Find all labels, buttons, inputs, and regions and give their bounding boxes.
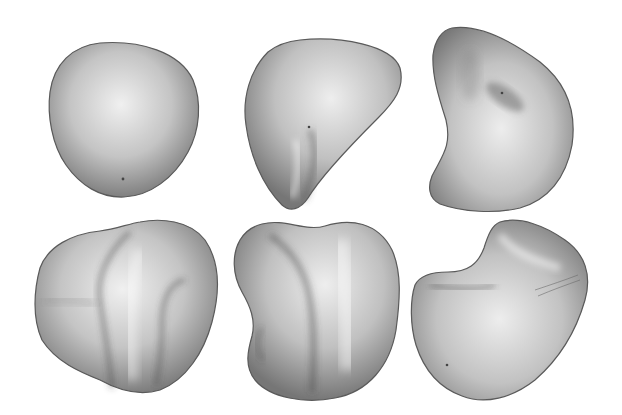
blob-5 bbox=[234, 222, 399, 400]
blob-2 bbox=[245, 39, 401, 209]
figure-canvas bbox=[0, 0, 622, 415]
blob-1 bbox=[49, 43, 198, 198]
blob-3 bbox=[430, 27, 574, 211]
blob-6 bbox=[411, 220, 587, 400]
blob-4 bbox=[35, 220, 217, 392]
